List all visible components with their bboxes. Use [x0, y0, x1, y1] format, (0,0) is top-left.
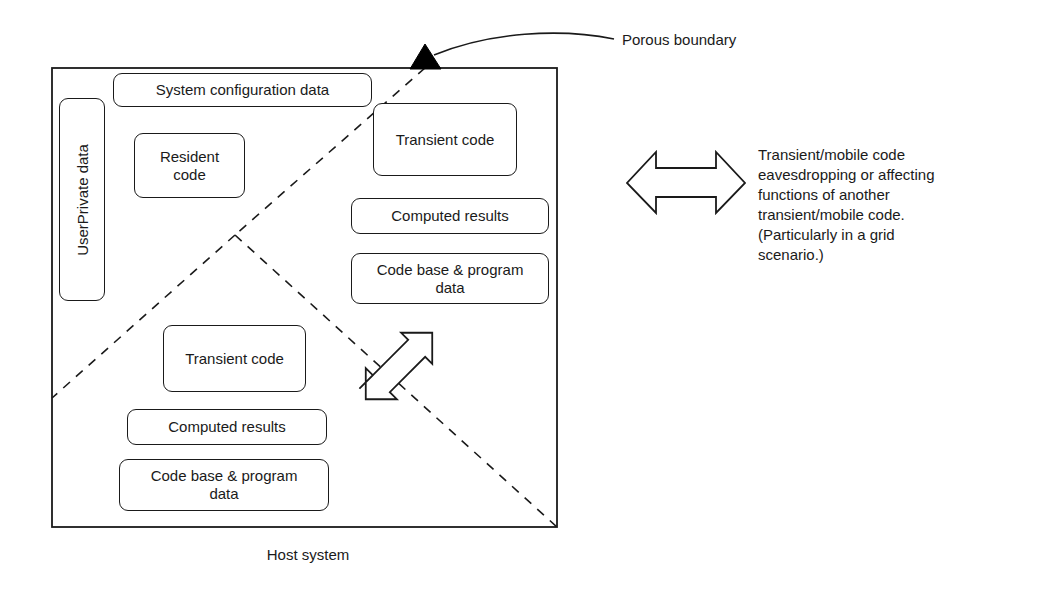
legend-double-arrow-icon — [627, 152, 745, 213]
box-transient-code-upper: Transient code — [373, 103, 517, 176]
box-code-base-program-data-lower: Code base & program data — [119, 459, 329, 511]
box-transient-code-lower: Transient code — [163, 325, 306, 392]
box-system-configuration-data: System configuration data — [113, 73, 372, 107]
box-computed-results-lower: Computed results — [127, 409, 327, 445]
host-system-caption: Host system — [243, 545, 373, 565]
porous-boundary-label: Porous boundary — [622, 30, 736, 50]
internal-interaction-arrow-icon — [350, 317, 448, 415]
porous-boundary-marker-icon — [410, 44, 441, 69]
eavesdropping-note-text: Transient/mobile code eavesdropping or a… — [758, 145, 1028, 265]
box-userprivate-data: UserPrivate data — [59, 98, 105, 301]
diagram-canvas: UserPrivate data System configuration da… — [0, 0, 1049, 589]
porous-boundary-leader-line — [434, 33, 614, 55]
box-code-base-program-data-upper: Code base & program data — [351, 253, 549, 304]
box-computed-results-upper: Computed results — [351, 198, 549, 234]
box-resident-code: Resident code — [134, 133, 245, 198]
box-label-userprivate-data: UserPrivate data — [74, 144, 91, 256]
